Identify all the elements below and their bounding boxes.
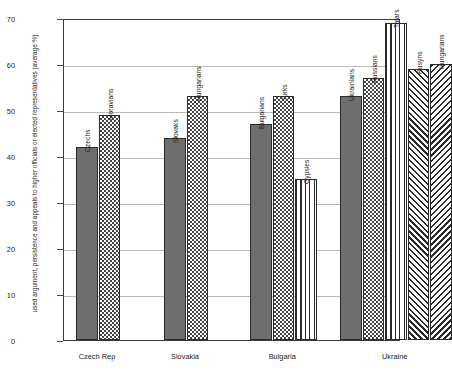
bar-bulgarians [250, 124, 272, 340]
x-axis-label-czech-rep: Czech Rep [79, 352, 116, 361]
gridline [64, 66, 399, 67]
bar-label-hungarians: Hungarians [195, 66, 202, 101]
y-axis-tick-label: 30 [0, 199, 15, 208]
plot-area: CzechsMoraviansSlovaksHungariansBulgaria… [63, 19, 400, 341]
bar-label-turks: Turks [281, 84, 288, 101]
y-axis-tick-label: 70 [0, 15, 15, 24]
y-axis-tick-mark [57, 341, 63, 342]
y-axis-tick-label: 50 [0, 107, 15, 116]
x-axis-label-ukraine: Ukraine [382, 352, 407, 361]
y-axis-tick-label: 40 [0, 153, 15, 162]
x-axis-label-slovakia: Slovakia [171, 352, 199, 361]
bar-label-czechs: Czechs [84, 129, 91, 152]
bar-label-bulgarians: Bulgarians [258, 97, 265, 129]
bar-tatars [385, 23, 407, 340]
y-axis-tick-label: 0 [0, 337, 15, 346]
plot-inner: CzechsMoraviansSlovaksHungariansBulgaria… [64, 20, 399, 340]
bar-label-ukrainians: Ukrainians [348, 69, 355, 101]
bar-label-tatars: Tatars [393, 9, 400, 28]
bar-slovaks [164, 138, 186, 340]
bar-moravians [99, 115, 121, 340]
bar-hungarians [187, 96, 209, 340]
bar-ukrainians [340, 96, 362, 340]
y-axis-tick-label: 60 [0, 61, 15, 70]
bar-russians [363, 78, 385, 340]
bar-label-slovaks: Slovaks [172, 119, 179, 143]
x-axis-label-bulgaria: Bulgaria [269, 352, 296, 361]
bar-rusyns [408, 69, 430, 340]
bar-label-rusyns: Rusyns [416, 51, 423, 74]
bar-label-moravians: Moravians [107, 88, 114, 119]
bar-czechs [76, 147, 98, 340]
bar-turks [273, 96, 295, 340]
bar-label-hungarians: Hungarians [438, 34, 445, 69]
y-axis-tick-label: 10 [0, 291, 15, 300]
bar-hungarians [430, 64, 452, 340]
y-axis-title: used argument, persistence and appeals t… [31, 9, 38, 339]
bar-gypsies [295, 179, 317, 340]
bar-label-gypsies: Gypsies [303, 159, 310, 184]
bar-label-russians: Russians [371, 55, 378, 83]
y-axis-tick-label: 20 [0, 245, 15, 254]
